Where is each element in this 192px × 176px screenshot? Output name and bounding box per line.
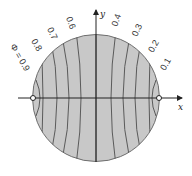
right-boundary-point: [157, 96, 162, 101]
label-0.8: 0.8: [29, 37, 44, 53]
label-0.2: 0.2: [146, 38, 161, 54]
label-0.4: 0.4: [109, 13, 123, 28]
label-0.7: 0.7: [45, 26, 59, 42]
label-phi-0.9: Φ = 0.9: [8, 42, 32, 73]
label-0.1: 0.1: [158, 56, 173, 72]
x-axis-label: x: [178, 102, 183, 112]
label-0.3: 0.3: [130, 22, 144, 38]
label-0.6: 0.6: [64, 15, 78, 30]
left-boundary-point: [31, 96, 36, 101]
y-axis-label: y: [99, 9, 106, 19]
equipotential-diagram: x y Φ = 0.9 0.8 0.7 0.6 0.4 0.3 0.2 0.1: [0, 0, 192, 176]
